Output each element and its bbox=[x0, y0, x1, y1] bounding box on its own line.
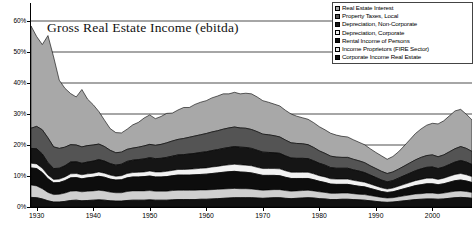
y-axis-tick bbox=[27, 176, 30, 177]
legend-item-label: Property Taxes, Local bbox=[342, 12, 398, 20]
legend-item[interactable]: Corporate Income Real Estate bbox=[335, 53, 470, 61]
legend-item[interactable]: Real Estate Interest bbox=[335, 4, 470, 12]
legend-item-label: Real Estate Interest bbox=[342, 4, 393, 12]
x-axis-tick-label: 1930 bbox=[29, 212, 44, 219]
legend-swatch-icon bbox=[335, 55, 340, 60]
legend-item-label: Depreciation, Non-Corporate bbox=[342, 20, 417, 28]
y-axis-tick-label: 30% bbox=[0, 110, 26, 117]
legend-item[interactable]: Property Taxes, Local bbox=[335, 12, 470, 20]
y-axis-tick-label: 0% bbox=[0, 203, 26, 210]
y-axis-tick bbox=[27, 145, 30, 146]
legend-item-label: Income Proprietors (FIRE Sector) bbox=[342, 45, 429, 53]
x-axis-tick bbox=[37, 207, 38, 211]
x-axis-tick-label: 2000 bbox=[425, 212, 440, 219]
x-axis-tick-label: 1940 bbox=[86, 212, 101, 219]
x-axis-tick-label: 1980 bbox=[312, 212, 327, 219]
chart-container: 0%10%20%30%40%50%60% 1930194019501960197… bbox=[0, 0, 475, 226]
y-axis-labels: 0%10%20%30%40%50%60% bbox=[0, 0, 31, 226]
legend-swatch-icon bbox=[335, 47, 340, 52]
y-axis-tick bbox=[27, 207, 30, 208]
legend-swatch-icon bbox=[335, 14, 340, 19]
x-axis-labels: 19301940195019601970198019902000 bbox=[0, 210, 475, 224]
legend-swatch-icon bbox=[335, 30, 340, 35]
legend-item-label: Depreciation, Corporate bbox=[342, 29, 404, 37]
legend-item-label: Rental Income of Persons bbox=[342, 37, 410, 45]
y-axis-tick bbox=[27, 21, 30, 22]
x-axis-tick bbox=[319, 207, 320, 211]
x-axis-tick bbox=[263, 207, 264, 211]
y-axis-tick-label: 60% bbox=[0, 17, 26, 24]
x-axis-tick bbox=[150, 207, 151, 211]
y-axis-tick bbox=[27, 83, 30, 84]
x-axis-tick-label: 1970 bbox=[255, 212, 270, 219]
y-axis-tick bbox=[27, 52, 30, 53]
x-axis-line bbox=[31, 207, 472, 208]
x-axis-tick bbox=[376, 207, 377, 211]
chart-title: Gross Real Estate Income (ebitda) bbox=[47, 20, 239, 36]
y-axis-tick-label: 50% bbox=[0, 48, 26, 55]
legend-item[interactable]: Depreciation, Corporate bbox=[335, 29, 470, 37]
legend-item-label: Corporate Income Real Estate bbox=[342, 53, 421, 61]
y-axis-tick-label: 20% bbox=[0, 141, 26, 148]
x-axis-tick bbox=[93, 207, 94, 211]
y-axis-tick bbox=[27, 114, 30, 115]
legend-item[interactable]: Depreciation, Non-Corporate bbox=[335, 20, 470, 28]
legend-item[interactable]: Income Proprietors (FIRE Sector) bbox=[335, 45, 470, 53]
y-axis-tick-label: 40% bbox=[0, 79, 26, 86]
legend-swatch-icon bbox=[335, 6, 340, 11]
chart-legend: Real Estate InterestProperty Taxes, Loca… bbox=[332, 2, 473, 64]
y-axis-tick-label: 10% bbox=[0, 172, 26, 179]
legend-swatch-icon bbox=[335, 22, 340, 27]
legend-item[interactable]: Rental Income of Persons bbox=[335, 37, 470, 45]
x-axis-tick bbox=[432, 207, 433, 211]
x-axis-tick bbox=[206, 207, 207, 211]
x-axis-tick-label: 1990 bbox=[368, 212, 383, 219]
x-axis-tick-label: 1960 bbox=[199, 212, 214, 219]
x-axis-tick-label: 1950 bbox=[142, 212, 157, 219]
legend-swatch-icon bbox=[335, 38, 340, 43]
